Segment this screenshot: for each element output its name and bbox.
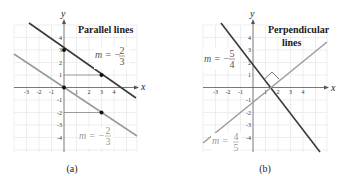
y-arrow-icon [251, 19, 255, 24]
svg-text:-4: -4 [246, 135, 251, 141]
figure: x y -3 -2 -1 1 2 3 4 4 3 2 1 -1 -2 -3 -4 [0, 0, 347, 176]
point-3-1 [100, 73, 104, 77]
svg-text:-1: -1 [57, 97, 62, 103]
svg-text:-3: -3 [246, 122, 251, 128]
slope-label-b-rising: m = 4 5 [211, 131, 241, 153]
svg-text:-1: -1 [49, 89, 54, 95]
point-3-neg2 [100, 111, 104, 115]
svg-text:-4: -4 [57, 135, 62, 141]
svg-text:1: 1 [248, 72, 251, 78]
slope-label-a-lower: m = − 2 3 [78, 125, 114, 149]
svg-text:-3: -3 [57, 122, 62, 128]
svg-text:5: 5 [230, 48, 235, 59]
svg-text:5: 5 [234, 142, 239, 153]
svg-text:m = −: m = − [79, 130, 105, 141]
right-angle-marker [264, 72, 279, 80]
svg-text:-1: -1 [246, 97, 251, 103]
svg-text:-3: -3 [213, 89, 218, 95]
svg-text:3: 3 [100, 89, 103, 95]
svg-text:2: 2 [88, 89, 91, 95]
y-arrow-icon [62, 19, 66, 24]
svg-text:-2: -2 [246, 110, 251, 116]
slope-label-a-upper: m = − 2 3 [94, 45, 130, 69]
caption-a: (a) [66, 163, 77, 175]
caption-b: (b) [259, 163, 271, 175]
svg-text:2: 2 [277, 89, 280, 95]
svg-text:4: 4 [113, 89, 116, 95]
x-arrow-icon [324, 86, 329, 90]
svg-text:2: 2 [120, 45, 125, 56]
title-b-line1: Perpendicular [268, 24, 330, 35]
point-0-3 [62, 48, 66, 52]
x-label-b: x [330, 82, 336, 93]
x-arrow-icon [134, 86, 139, 90]
panel-a: x y -3 -2 -1 1 2 3 4 4 3 2 1 -1 -2 -3 -4 [14, 8, 146, 175]
svg-text:-2: -2 [37, 89, 42, 95]
svg-text:m = −: m = − [95, 49, 121, 60]
title-a: Parallel lines [78, 24, 133, 35]
svg-text:-2: -2 [57, 110, 62, 116]
svg-text:m = −: m = − [204, 53, 230, 64]
svg-text:3: 3 [289, 89, 292, 95]
svg-text:4: 4 [234, 131, 239, 142]
svg-text:4: 4 [248, 35, 251, 41]
svg-text:1: 1 [59, 72, 62, 78]
x-label-a: x [140, 81, 146, 92]
slope-label-b-steep: m = − 5 4 [203, 48, 238, 70]
svg-text:-3: -3 [24, 89, 29, 95]
svg-text:m =: m = [212, 135, 228, 146]
point-0-0 [62, 86, 66, 90]
svg-text:4: 4 [230, 59, 235, 70]
y-label-b: y [249, 8, 255, 19]
title-b-line2: lines [282, 37, 302, 48]
svg-text:3: 3 [248, 47, 251, 53]
svg-text:3: 3 [59, 47, 62, 53]
svg-text:3: 3 [120, 56, 125, 67]
svg-text:4: 4 [302, 89, 305, 95]
svg-text:4: 4 [59, 35, 62, 41]
svg-text:-1: -1 [238, 89, 243, 95]
svg-text:-2: -2 [226, 89, 231, 95]
svg-text:2: 2 [59, 60, 62, 66]
y-label-a: y [60, 8, 66, 19]
svg-text:3: 3 [106, 136, 111, 147]
panel-b: x y -3 -2 -1 1 2 3 4 4 3 2 1 -1 -2 -3 -4… [203, 8, 336, 175]
svg-text:2: 2 [106, 125, 111, 136]
x-ticks-b: -3 -2 -1 1 2 3 4 [213, 89, 305, 95]
